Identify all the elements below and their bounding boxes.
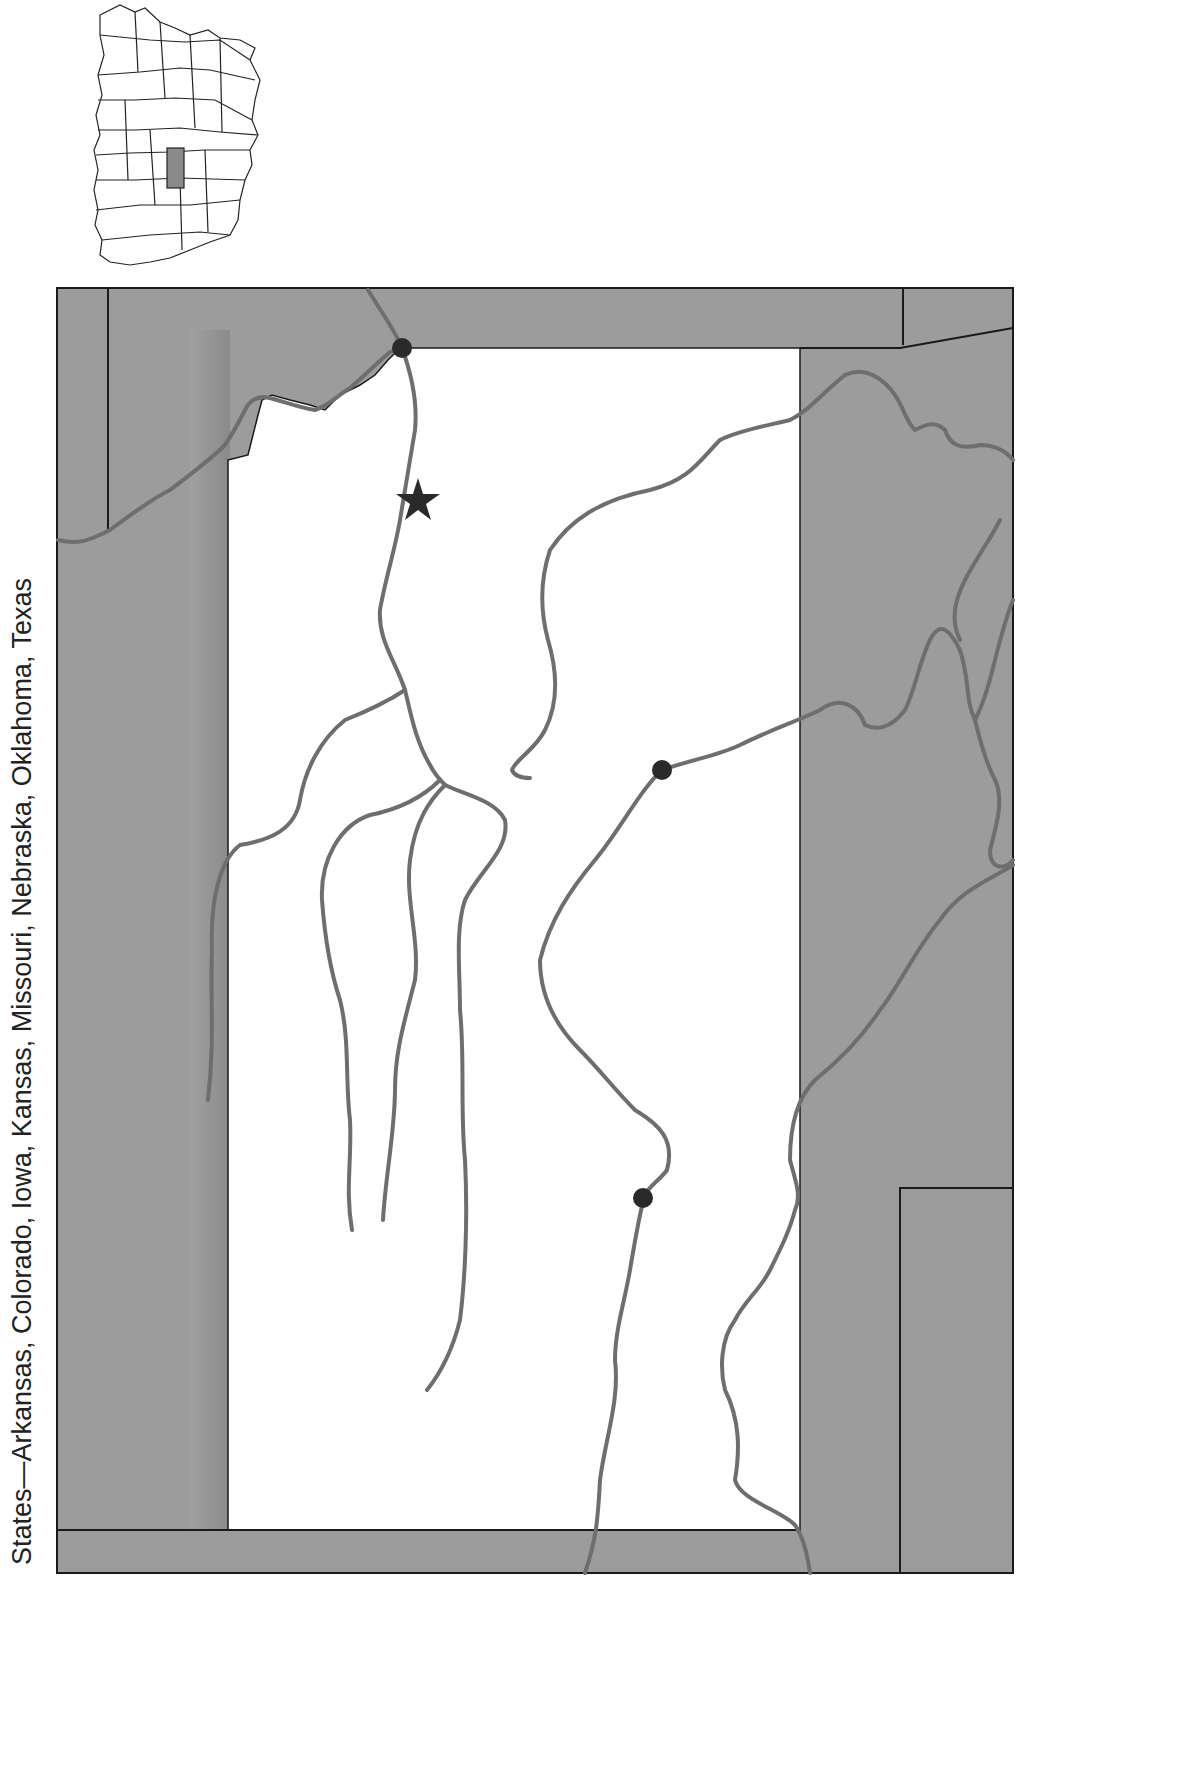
city-dot-north [392, 338, 412, 358]
city-dot-south [633, 1188, 653, 1208]
main-state-map [0, 0, 1195, 1775]
city-dot-east [652, 760, 672, 780]
focus-state [228, 348, 800, 1530]
